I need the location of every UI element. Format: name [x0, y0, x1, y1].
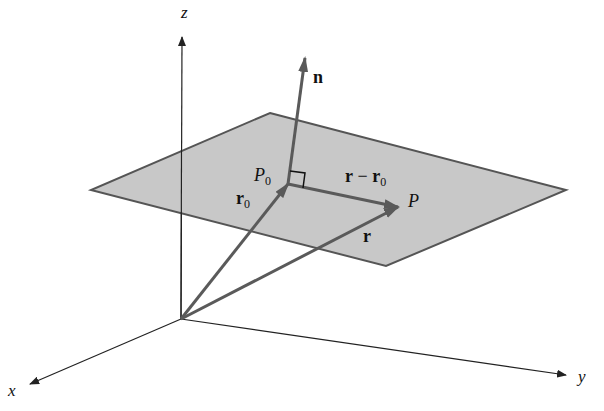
y-axis: [181, 319, 566, 375]
vector-r0-label: r0: [236, 189, 250, 207]
x-axis-label: x: [8, 382, 16, 399]
plane-diagram: [0, 0, 604, 411]
normal-vector-label: n: [313, 68, 323, 86]
point-p0-label: P0: [254, 166, 271, 184]
vector-r-minus-r0-label: r − r0: [345, 167, 386, 185]
z-axis-label: z: [181, 4, 188, 21]
x-axis: [30, 319, 181, 384]
point-p-label: P: [408, 192, 419, 210]
z-axis-through-plane: [181, 150, 182, 319]
y-axis-label: y: [578, 368, 586, 385]
vector-r-label: r: [363, 227, 371, 245]
